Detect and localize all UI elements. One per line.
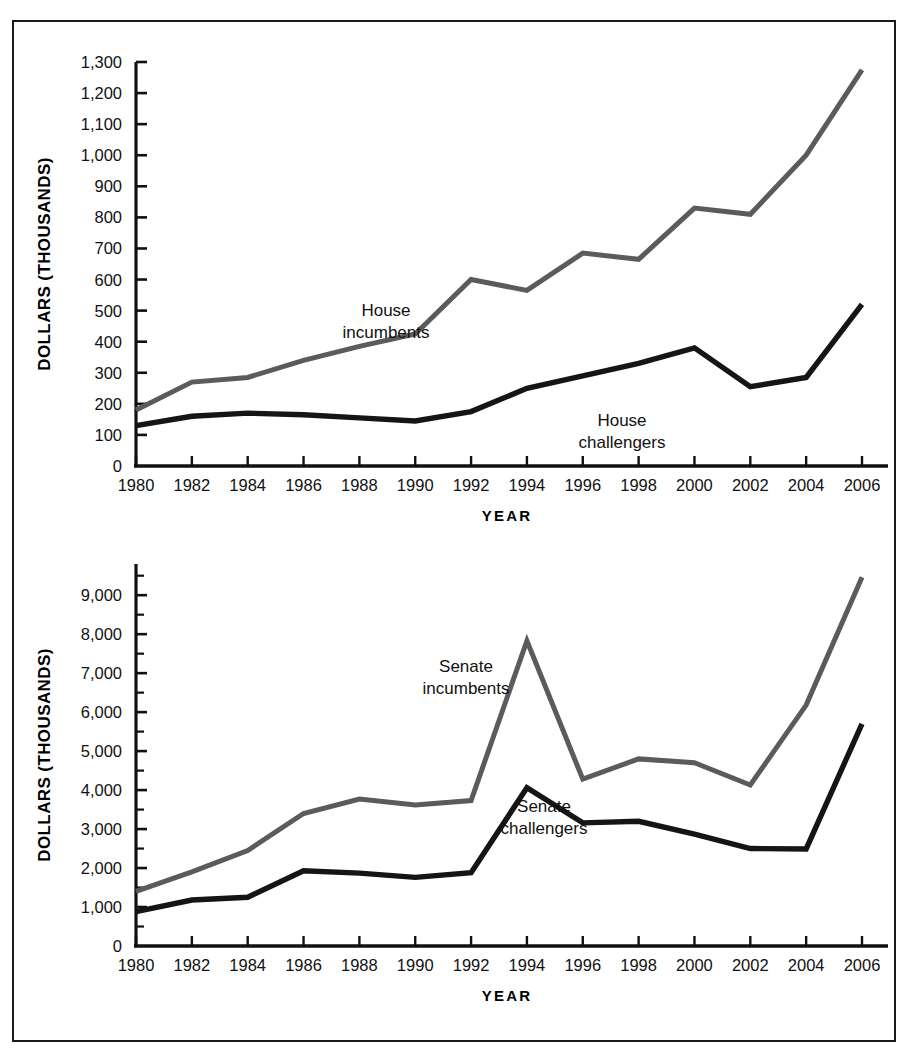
- x-tick-label: 1986: [285, 476, 322, 494]
- y-tick-label: 300: [94, 364, 122, 382]
- series-label-line1: House: [597, 411, 646, 430]
- x-tick-label: 2004: [788, 476, 825, 494]
- x-tick-label: 1988: [341, 476, 378, 494]
- chart-panel-senate: 01,0002,0003,0004,0005,0006,0007,0008,00…: [14, 534, 898, 1034]
- y-tick-label: 500: [94, 302, 122, 320]
- series-label-line1: Senate: [439, 657, 493, 676]
- y-tick-label: 100: [94, 426, 122, 444]
- series-line-senate-incumbents: [136, 577, 862, 891]
- scan-artifact-strip: [0, 0, 910, 18]
- x-tick-label: 1984: [229, 476, 266, 494]
- x-tick-label: 2006: [844, 476, 881, 494]
- y-tick-label: 900: [94, 177, 122, 195]
- y-tick-label: 5,000: [81, 742, 122, 760]
- x-tick-label: 1988: [341, 956, 378, 974]
- x-axis-title: YEAR: [482, 987, 532, 1004]
- series-annotation-senate-incumbents: Senateincumbents: [423, 657, 510, 698]
- y-tick-label: 200: [94, 395, 122, 413]
- series-annotation-house-incumbents: Houseincumbents: [343, 301, 430, 342]
- y-tick-label: 4,000: [81, 781, 122, 799]
- series-label-line1: House: [361, 301, 410, 320]
- x-tick-label: 2002: [732, 476, 769, 494]
- y-tick-label: 2,000: [81, 859, 122, 877]
- series-line-house-challengers: [136, 304, 862, 425]
- x-tick-label: 1996: [564, 956, 601, 974]
- x-axis-title: YEAR: [482, 507, 532, 524]
- x-tick-label: 2006: [844, 956, 881, 974]
- x-tick-label: 1986: [285, 956, 322, 974]
- x-tick-label: 1990: [397, 956, 434, 974]
- y-tick-label: 1,000: [81, 146, 122, 164]
- x-tick-label: 1984: [229, 956, 266, 974]
- y-tick-label: 3,000: [81, 820, 122, 838]
- senate-line-chart: 01,0002,0003,0004,0005,0006,0007,0008,00…: [14, 534, 898, 1034]
- x-tick-label: 1992: [453, 476, 490, 494]
- series-label-line2: challengers: [579, 433, 666, 452]
- x-tick-label: 1998: [620, 956, 657, 974]
- series-line-senate-challengers: [136, 724, 862, 912]
- x-tick-label: 2000: [676, 956, 713, 974]
- x-tick-label: 1994: [509, 476, 546, 494]
- x-tick-label: 2002: [732, 956, 769, 974]
- x-tick-label: 1998: [620, 476, 657, 494]
- x-tick-label: 1982: [173, 476, 210, 494]
- series-line-house-incumbents: [136, 70, 862, 410]
- series-label-line2: incumbents: [423, 679, 510, 698]
- x-tick-label: 1992: [453, 956, 490, 974]
- y-tick-label: 700: [94, 239, 122, 257]
- y-tick-label: 1,200: [81, 84, 122, 102]
- y-tick-label: 1,100: [81, 115, 122, 133]
- y-tick-label: 400: [94, 333, 122, 351]
- series-label-line2: incumbents: [343, 323, 430, 342]
- x-tick-label: 1980: [118, 476, 155, 494]
- chart-panel-house: 01002003004005006007008009001,0001,1001,…: [14, 26, 898, 526]
- house-line-chart: 01002003004005006007008009001,0001,1001,…: [14, 26, 898, 526]
- y-axis-title: DOLLARS (THOUSANDS): [35, 648, 54, 861]
- y-tick-label: 9,000: [81, 586, 122, 604]
- x-tick-label: 1990: [397, 476, 434, 494]
- figure-frame: 01002003004005006007008009001,0001,1001,…: [12, 20, 896, 1042]
- x-tick-label: 1996: [564, 476, 601, 494]
- y-tick-label: 7,000: [81, 664, 122, 682]
- x-tick-label: 1980: [118, 956, 155, 974]
- y-tick-label: 0: [113, 457, 122, 475]
- x-tick-label: 2000: [676, 476, 713, 494]
- series-label-line2: challengers: [501, 819, 588, 838]
- x-tick-label: 2004: [788, 956, 825, 974]
- y-tick-label: 1,000: [81, 898, 122, 916]
- series-label-line1: Senate: [517, 797, 571, 816]
- y-tick-label: 0: [113, 937, 122, 955]
- y-tick-label: 1,300: [81, 53, 122, 71]
- series-annotation-house-challengers: Housechallengers: [579, 411, 666, 452]
- y-tick-label: 800: [94, 208, 122, 226]
- y-axis-title: DOLLARS (THOUSANDS): [35, 157, 54, 370]
- y-tick-label: 600: [94, 271, 122, 289]
- y-tick-label: 6,000: [81, 703, 122, 721]
- y-tick-label: 8,000: [81, 625, 122, 643]
- x-tick-label: 1982: [173, 956, 210, 974]
- x-tick-label: 1994: [509, 956, 546, 974]
